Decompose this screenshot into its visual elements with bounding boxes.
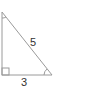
- hypotenuse-label: 5: [30, 36, 36, 48]
- hypotenuse: [2, 12, 52, 75]
- triangle: [2, 12, 52, 75]
- top-angle-arc: [2, 17, 6, 18]
- bottom-right-angle-arc: [44, 69, 47, 75]
- triangle-diagram: 5 3: [0, 0, 106, 93]
- right-angle-marker: [2, 68, 9, 75]
- base-label: 3: [21, 76, 27, 88]
